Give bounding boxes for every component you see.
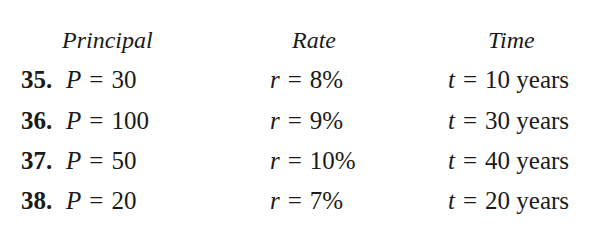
equals-sign: =	[463, 183, 477, 219]
principal-cell: P=100	[66, 103, 149, 139]
rate-variable: r	[270, 147, 280, 174]
rate-value: 10%	[310, 147, 356, 174]
rate-cell: r=9%	[270, 103, 343, 139]
time-cell: t=20 years	[448, 183, 569, 219]
time-value: 10 years	[485, 66, 569, 93]
time-variable: t	[448, 107, 455, 134]
equals-sign: =	[463, 62, 477, 98]
principal-cell: P=20	[66, 183, 136, 219]
rate-variable: r	[270, 187, 280, 214]
time-value: 30 years	[485, 107, 569, 134]
header-principal: Principal	[62, 25, 153, 55]
time-value: 20 years	[485, 187, 569, 214]
problem-number: 38.	[21, 183, 52, 219]
rate-value: 8%	[310, 66, 343, 93]
principal-value: 50	[111, 147, 136, 174]
time-variable: t	[448, 187, 455, 214]
principal-cell: P=50	[66, 143, 136, 179]
principal-value: 30	[111, 66, 136, 93]
equals-sign: =	[288, 62, 302, 98]
time-variable: t	[448, 147, 455, 174]
rate-value: 9%	[310, 107, 343, 134]
equals-sign: =	[89, 143, 103, 179]
rate-cell: r=8%	[270, 62, 343, 98]
time-cell: t=40 years	[448, 143, 569, 179]
problem-row: 36. P=100 r=9% t=30 years	[0, 103, 605, 139]
rate-cell: r=7%	[270, 183, 343, 219]
time-cell: t=30 years	[448, 103, 569, 139]
principal-value: 20	[111, 187, 136, 214]
time-variable: t	[448, 66, 455, 93]
equals-sign: =	[89, 103, 103, 139]
principal-variable: P	[66, 66, 81, 93]
equals-sign: =	[89, 183, 103, 219]
time-cell: t=10 years	[448, 62, 569, 98]
rate-variable: r	[270, 66, 280, 93]
principal-value: 100	[111, 107, 149, 134]
principal-variable: P	[66, 147, 81, 174]
principal-cell: P=30	[66, 62, 136, 98]
problem-row: 35. P=30 r=8% t=10 years	[0, 62, 605, 98]
rate-value: 7%	[310, 187, 343, 214]
principal-variable: P	[66, 107, 81, 134]
rate-cell: r=10%	[270, 143, 356, 179]
header-time: Time	[488, 25, 535, 55]
equals-sign: =	[463, 143, 477, 179]
equals-sign: =	[89, 62, 103, 98]
equals-sign: =	[288, 143, 302, 179]
header-rate: Rate	[292, 25, 336, 55]
problem-row: 37. P=50 r=10% t=40 years	[0, 143, 605, 179]
time-value: 40 years	[485, 147, 569, 174]
problem-row: 38. P=20 r=7% t=20 years	[0, 183, 605, 219]
equals-sign: =	[288, 103, 302, 139]
equals-sign: =	[463, 103, 477, 139]
rate-variable: r	[270, 107, 280, 134]
principal-variable: P	[66, 187, 81, 214]
problem-number: 35.	[21, 62, 52, 98]
problem-number: 36.	[21, 103, 52, 139]
problem-number: 37.	[21, 143, 52, 179]
equals-sign: =	[288, 183, 302, 219]
